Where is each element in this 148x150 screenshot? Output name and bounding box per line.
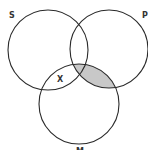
label-s: S — [9, 11, 15, 20]
circle-p — [70, 10, 148, 88]
mark-x: X — [57, 75, 64, 84]
label-p: P — [142, 11, 148, 20]
venn-diagram: S P M X — [0, 0, 148, 150]
label-m: M — [76, 147, 84, 150]
